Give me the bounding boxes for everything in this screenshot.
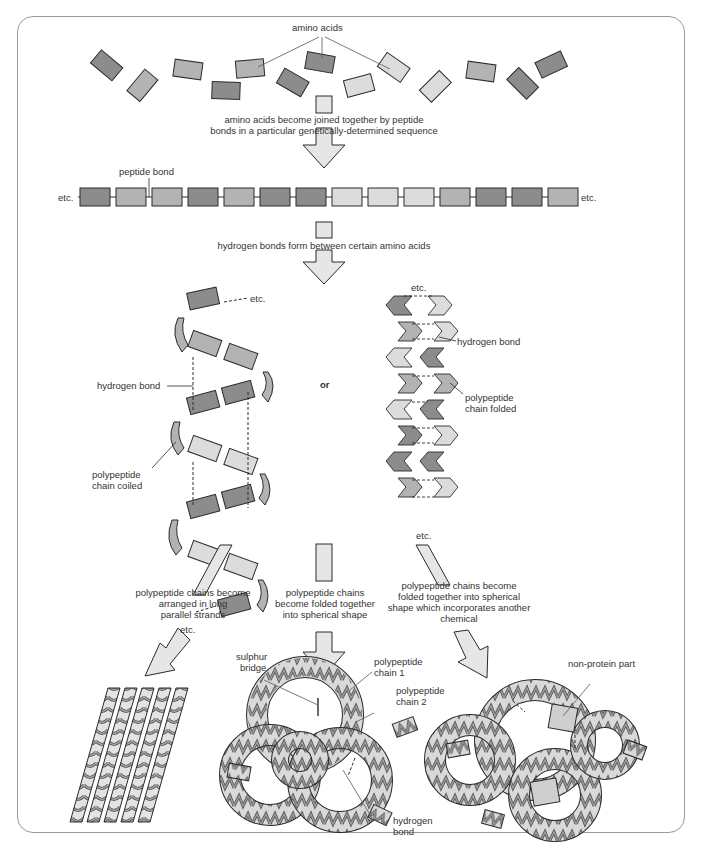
branch-left-line3: parallel strands: [118, 609, 268, 620]
label-step2: hydrogen bonds form between certain amin…: [212, 240, 436, 251]
helix-coiled-line1: polypeptide: [92, 469, 141, 480]
non-protein-part-1: [548, 704, 578, 732]
sheet-folded-line1: polypeptide: [465, 392, 514, 403]
branch-middle-line1: polypeptide chains: [266, 587, 384, 598]
arrow-2: [303, 222, 345, 284]
globular-chain1-line1: polypeptide: [374, 656, 423, 667]
globular-chain2-line2: chain 2: [396, 696, 427, 707]
label-or: or: [320, 379, 330, 390]
non-protein-part-2: [530, 778, 560, 806]
helix-hydrogen-bond-label: hydrogen bond: [97, 380, 160, 391]
globular-protein: [227, 667, 418, 826]
label-step1-line1: amino acids become joined together by pe…: [208, 114, 440, 125]
globular-sulphur-line2: bridge: [240, 662, 266, 673]
helix-etc-top: etc.: [250, 293, 265, 304]
globular-sulphur-line1: sulphur: [236, 651, 267, 662]
label-etc-left: etc.: [58, 192, 73, 203]
label-peptide-bond: peptide bond: [119, 166, 174, 177]
conjugated-non-protein-label: non-protein part: [568, 658, 635, 669]
branch-right-line3: shape which incorporates another: [376, 602, 542, 613]
fibrous-protein: [70, 688, 188, 822]
branch-right-line4: chemical: [376, 613, 542, 624]
sheet-etc-top: etc.: [411, 282, 426, 293]
sheet-etc-bottom: etc.: [416, 530, 431, 541]
label-amino-acids: amino acids: [292, 22, 343, 33]
helix-etc-bottom: etc.: [180, 624, 195, 635]
branch-middle-line2: become folded together: [266, 598, 384, 609]
peptide-chain: [78, 178, 578, 206]
globular-chain1-line2: chain 1: [374, 667, 405, 678]
branch-left-line1: polypeptide chains become: [118, 587, 268, 598]
sheet-hydrogen-bond-label: hydrogen bond: [457, 336, 520, 347]
sheet-folded-line2: chain folded: [465, 403, 516, 414]
branch-right-line2: folded together into spherical: [376, 591, 542, 602]
free-amino-acids: [90, 50, 567, 102]
label-step1-line2: bonds in a particular genetically-determ…: [192, 125, 456, 136]
conjugated-protein: [435, 684, 647, 831]
helix-coiled-line2: chain coiled: [92, 480, 142, 491]
beta-sheet: [386, 296, 463, 497]
globular-chain2-line1: polypeptide: [396, 685, 445, 696]
branch-middle-line3: into spherical shape: [266, 609, 384, 620]
branch-right-line1: polypeptide chains become: [376, 580, 542, 591]
label-etc-right: etc.: [581, 192, 596, 203]
globular-hbond-line2: bond: [393, 826, 414, 837]
globular-hbond-line1: hydrogen: [393, 815, 433, 826]
branch-left-line2: arranged in long: [118, 598, 268, 609]
